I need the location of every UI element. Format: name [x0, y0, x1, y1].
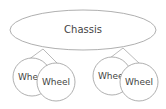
connector-left-wheel2 [43, 49, 58, 64]
node-chassis[interactable]: Chassis [10, 10, 156, 50]
chassis-wheel-diagram: Chassis Wheel Wheel Wheel Wheel [0, 0, 166, 109]
wheel-4-label: Wheel [125, 77, 153, 87]
wheel-2-label: Wheel [42, 77, 70, 87]
node-wheel-2[interactable]: Wheel [37, 63, 75, 101]
chassis-label: Chassis [64, 24, 102, 35]
connector-right-wheel4 [123, 48, 140, 64]
node-wheel-4[interactable]: Wheel [120, 63, 158, 101]
connector-right-wheel3 [110, 48, 123, 58]
